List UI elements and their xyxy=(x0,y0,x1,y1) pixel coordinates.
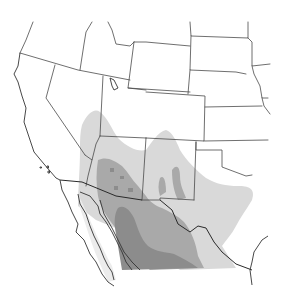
range-spot xyxy=(110,168,114,172)
channel-island xyxy=(40,167,42,168)
great-salt-lake xyxy=(110,78,118,90)
range-spot xyxy=(114,186,118,190)
channel-island xyxy=(47,166,49,168)
range-map xyxy=(0,0,292,305)
channel-island xyxy=(48,171,50,173)
range-spot xyxy=(120,176,124,179)
range-spot xyxy=(128,188,133,192)
coastline-gulf-mexico xyxy=(250,236,268,285)
